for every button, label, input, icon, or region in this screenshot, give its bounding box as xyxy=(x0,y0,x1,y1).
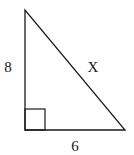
left-side-label: 8 xyxy=(4,59,12,75)
right-angle-marker xyxy=(25,109,45,130)
bottom-side-label: 6 xyxy=(71,138,79,154)
hypotenuse-label: X xyxy=(88,59,99,75)
right-triangle-diagram: 8 X 6 xyxy=(0,0,134,155)
triangle-shape xyxy=(25,10,125,130)
